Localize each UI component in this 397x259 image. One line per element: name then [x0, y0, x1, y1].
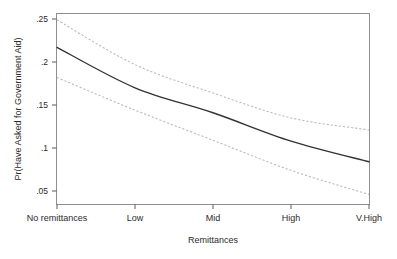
y-tick-label-01: .1 — [41, 143, 48, 153]
x-tick-label-mid: Mid — [206, 213, 221, 223]
y-tick-label-02: .2 — [41, 57, 48, 67]
x-tick-label-low: Low — [127, 213, 144, 223]
y-tick-label-015: .15 — [36, 100, 48, 110]
y-tick-label-005: .05 — [36, 186, 48, 196]
x-tick-label-no-remittances: No remittances — [27, 213, 88, 223]
y-tick-label-025: .25 — [36, 14, 48, 24]
prediction-plot: .25 .2 .15 .1 .05 No remittances Low Mid… — [0, 0, 397, 259]
x-tick-label-vhigh: V.High — [356, 213, 382, 223]
x-tick-label-high: High — [282, 213, 301, 223]
y-axis-title: Pr(Have Asked for Government Aid) — [13, 37, 23, 180]
x-axis-title: Remittances — [188, 235, 239, 245]
